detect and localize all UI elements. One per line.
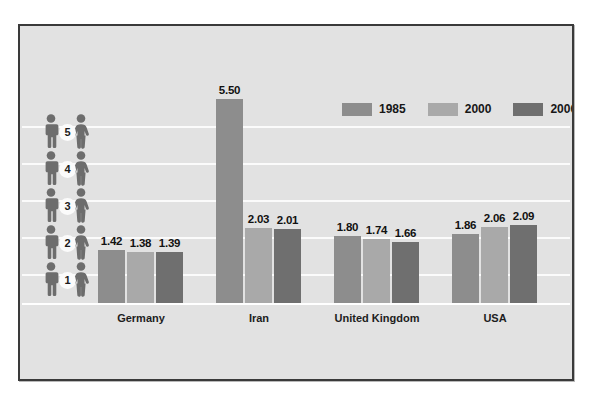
category-label-united-kingdom: United Kingdom	[335, 312, 420, 324]
category-label-usa: USA	[483, 312, 506, 324]
bar-united-kingdom-2000[interactable]: 1.74	[363, 239, 390, 303]
bar-value: 1.38	[130, 237, 152, 249]
legend-label: 2000	[465, 102, 492, 116]
axis-baseline	[22, 303, 570, 305]
legend-swatch-icon	[342, 103, 372, 116]
bar-usa-2006[interactable]: 2.09	[510, 225, 537, 303]
legend-swatch-icon	[513, 103, 543, 116]
bar-iran-2006[interactable]: 2.01	[274, 229, 301, 303]
bar-usa-2000[interactable]: 2.06	[481, 227, 508, 303]
bar-united-kingdom-1985[interactable]: 1.80	[334, 236, 361, 303]
bar-iran-2000[interactable]: 2.03	[245, 228, 272, 303]
legend-item-2000[interactable]: 2000	[428, 102, 492, 116]
pictogram-number: 4	[59, 161, 76, 178]
legend-label: 2006	[550, 102, 572, 116]
bar-iran-1985[interactable]: 5.50	[216, 99, 243, 303]
bar-germany-1985[interactable]: 1.42	[98, 250, 125, 303]
bar-germany-2000[interactable]: 1.38	[127, 252, 154, 303]
bar-value: 1.42	[101, 235, 123, 247]
legend-item-1985[interactable]: 1985	[342, 102, 406, 116]
pictogram-number: 1	[59, 272, 76, 289]
pictogram-number: 3	[59, 198, 76, 215]
legend-swatch-icon	[428, 103, 458, 116]
bar-value: 1.80	[337, 221, 359, 233]
bar-value: 2.09	[513, 210, 535, 222]
bar-value: 2.06	[484, 212, 506, 224]
bar-germany-2006[interactable]: 1.39	[156, 252, 183, 303]
bar-value: 1.66	[395, 227, 417, 239]
bar-value: 1.86	[455, 219, 477, 231]
category-label-germany: Germany	[117, 312, 165, 324]
legend: 1985 2000 2006	[342, 102, 572, 116]
legend-label: 1985	[379, 102, 406, 116]
bar-value: 2.03	[248, 213, 270, 225]
chart-figure: 5 4	[18, 24, 574, 381]
bar-value: 1.39	[159, 237, 181, 249]
bar-usa-1985[interactable]: 1.86	[452, 234, 479, 303]
pictogram-number: 5	[59, 124, 76, 141]
plot-area: 5 4	[20, 26, 572, 379]
bar-value: 1.74	[366, 224, 388, 236]
bar-united-kingdom-2006[interactable]: 1.66	[392, 242, 419, 303]
pictogram-number: 2	[59, 235, 76, 252]
category-label-iran: Iran	[249, 312, 269, 324]
bar-value: 5.50	[219, 84, 241, 96]
bars-layer: 1.42 1.38 1.39 5.50 2.03 2.01 1.80	[20, 26, 572, 303]
legend-item-2006[interactable]: 2006	[513, 102, 572, 116]
bar-value: 2.01	[277, 214, 299, 226]
